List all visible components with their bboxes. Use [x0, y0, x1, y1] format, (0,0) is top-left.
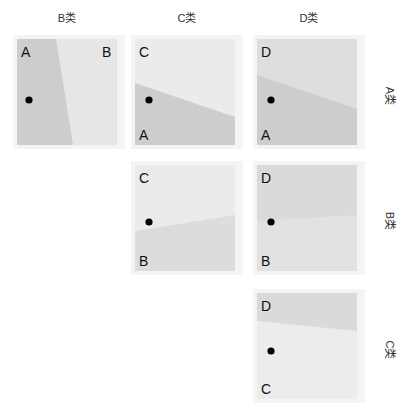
region-label-d: D [261, 298, 271, 314]
region-label-c: C [139, 170, 149, 186]
region-label-b: B [102, 44, 111, 60]
region-label-c: C [139, 44, 149, 60]
region-label-d: D [261, 170, 271, 186]
data-point [145, 218, 152, 225]
region-label-a: A [261, 127, 270, 143]
panel-c-vs-b: C B [131, 161, 243, 275]
decision-region-plot [135, 39, 235, 145]
region-label-b: B [261, 253, 270, 269]
data-point [267, 96, 274, 103]
panel-d-vs-c: D C [253, 289, 365, 403]
panel-c-vs-a: C A [131, 35, 243, 149]
region-label-d: D [261, 44, 271, 60]
data-point [267, 347, 274, 354]
decision-region-plot [257, 39, 357, 145]
region-label-c: C [261, 381, 271, 397]
column-label-c: C类 [147, 9, 227, 25]
panel-d-vs-b: D B [253, 161, 365, 275]
region-label-b: B [139, 253, 148, 269]
row-label-c: C类 [383, 330, 399, 370]
column-label-b: B类 [27, 9, 107, 25]
decision-region-plot [135, 165, 235, 271]
region-label-a: A [139, 127, 148, 143]
data-point [267, 218, 274, 225]
column-label-d: D类 [269, 9, 349, 25]
decision-region-plot [257, 165, 357, 271]
data-point [145, 96, 152, 103]
decision-region-plot [257, 293, 357, 399]
data-point [25, 96, 32, 103]
panel-d-vs-a: D A [253, 35, 365, 149]
region-label-a: A [21, 44, 30, 60]
panel-a-vs-b: A B [13, 35, 125, 149]
row-label-b: B类 [383, 201, 399, 241]
row-label-a: A类 [383, 76, 399, 116]
